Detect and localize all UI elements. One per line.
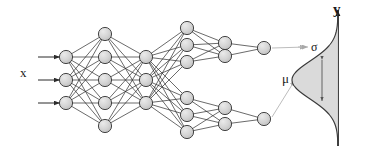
network-node [218, 49, 231, 62]
edge [105, 34, 146, 57]
mu-label: μ [282, 72, 289, 85]
network-node [59, 50, 72, 63]
network-node [218, 101, 231, 114]
network-node [139, 96, 152, 109]
network-node [180, 125, 193, 138]
network-node [180, 108, 193, 121]
network-node [139, 73, 152, 86]
sigma-label: σ [311, 41, 317, 53]
network-diagram-canvas [0, 0, 366, 149]
network-node [257, 41, 270, 54]
network-node [98, 27, 111, 40]
network-node [180, 21, 193, 34]
network-node [98, 73, 111, 86]
network-node [59, 96, 72, 109]
input-arrows [38, 57, 60, 103]
input-label-x: x [20, 66, 27, 79]
network-node [139, 50, 152, 63]
output-axis-label-y: y [333, 2, 341, 17]
gaussian-fill [292, 12, 338, 146]
edge [105, 103, 146, 126]
network-node [218, 36, 231, 49]
network-node [98, 119, 111, 132]
network-node [98, 50, 111, 63]
network-node [180, 91, 193, 104]
neural-network-figure: x y σ μ [0, 0, 366, 149]
edge [105, 57, 146, 126]
edge [66, 34, 105, 103]
gaussian-distribution [292, 10, 340, 146]
network-node [180, 55, 193, 68]
network-node [59, 73, 72, 86]
network-node [98, 96, 111, 109]
network-edges [66, 28, 264, 132]
network-node [180, 38, 193, 51]
network-node [257, 112, 270, 125]
network-node [218, 117, 231, 130]
